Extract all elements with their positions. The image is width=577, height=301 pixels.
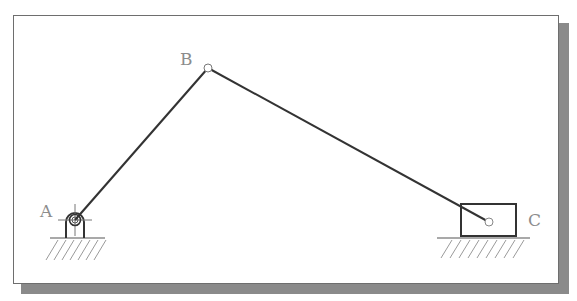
connecting-rod-link [208, 68, 489, 222]
ground-a [46, 238, 106, 260]
joint-c [485, 218, 493, 226]
label-a: A [39, 201, 53, 221]
crank-link [75, 68, 208, 220]
label-b: B [180, 49, 193, 69]
label-c: C [528, 210, 541, 230]
mechanism-diagram: A B C [0, 0, 577, 301]
pivot-support-a [58, 204, 92, 238]
joint-b [204, 64, 212, 72]
ground-c [437, 238, 530, 258]
